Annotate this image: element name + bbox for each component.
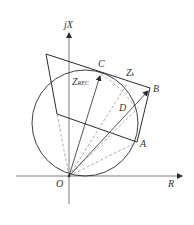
dashed-line-cd [101,74,134,106]
dashed-line-left [57,114,69,176]
origin-label: O [56,179,63,189]
point-a-label: A [140,139,146,149]
z-k-vector [69,91,148,176]
dashed-line-a [69,142,137,176]
point-c-label: C [98,59,105,69]
z-k-label: Zk [126,68,134,78]
z-rec-label: ZREC [72,77,89,87]
dashed-line-mid [69,84,127,176]
r-axis-label: R [168,179,174,189]
jx-axis-label: jX [64,20,73,30]
origin-point [68,175,71,178]
point-d-label: D [119,103,126,113]
point-b-label: B [153,84,159,94]
impedance-diagram [0,0,194,225]
z-k-subscript: k [132,71,135,77]
z-rec-subscript: REC [78,80,89,86]
